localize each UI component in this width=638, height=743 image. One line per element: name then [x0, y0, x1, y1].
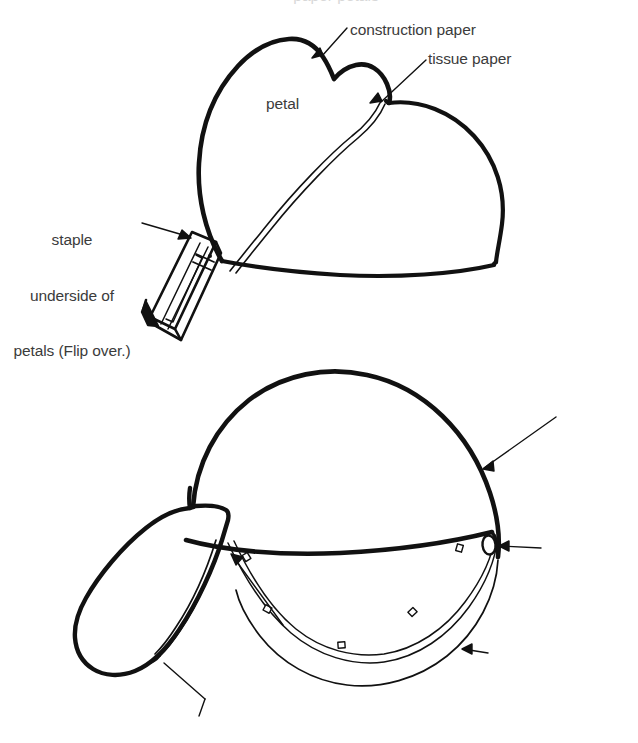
tissue-paper-petal-outline	[75, 506, 229, 675]
tissue-petal-stem-edge	[189, 488, 190, 508]
leader-stapled-underside	[232, 555, 283, 625]
leader-petal-border-tail	[199, 699, 205, 716]
arrowhead-rubberband-strap	[462, 644, 472, 654]
arrowhead-tissue-paper	[370, 93, 382, 103]
staple-pivot-dot	[208, 254, 212, 258]
rubberband-knots	[242, 544, 463, 648]
construction-paper-fan	[389, 102, 503, 262]
construction-paper-petal-border-2	[155, 540, 216, 654]
label-petal: petal	[266, 95, 299, 114]
label-construction-paper: construction paper	[350, 21, 476, 40]
arrowhead-basic-headpiece	[483, 461, 494, 471]
staple-body-top	[150, 232, 216, 329]
headpiece-lower-contour	[236, 560, 498, 686]
arrowhead-staple-note	[178, 230, 191, 239]
label-tissue-paper: tissue paper	[428, 50, 511, 69]
basic-headpiece-dome	[193, 371, 499, 557]
tissue-paper-inner-edge-2	[230, 101, 381, 271]
petal-tip-join	[386, 101, 389, 103]
leader-construction-paper	[322, 28, 347, 56]
construction-paper-petal-border	[160, 541, 222, 656]
figure-petal-assembly: construction paper tissue paper petal st…	[0, 0, 638, 360]
tissue-paper-inner-edge	[236, 104, 385, 273]
diagram-page: paper petals	[0, 0, 638, 743]
figure-headpiece: basic headpiece crown or center of flowe…	[0, 360, 638, 743]
staple-illustration	[142, 232, 221, 340]
rubberband-knot	[408, 607, 417, 616]
leader-basic-headpiece	[484, 417, 556, 468]
brass-paper-fastener	[482, 535, 497, 555]
rubberband-knot	[338, 642, 345, 648]
leader-petal-border	[164, 663, 205, 699]
rubberband-knot	[456, 544, 464, 552]
label-staple-note-line2: underside of	[6, 287, 138, 306]
construction-paper-fan-bottom	[222, 261, 494, 276]
label-staple-note-line1: staple	[6, 231, 138, 250]
label-staple-note-line3: petals (Flip over.)	[6, 342, 138, 361]
petal-outline	[199, 39, 390, 261]
